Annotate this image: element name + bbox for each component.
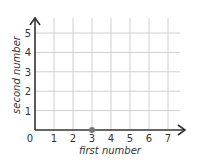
y-tick-label: 3 (25, 67, 31, 78)
x-tick-labels: 01234567 (27, 133, 171, 144)
x-axis-label: first number (79, 145, 142, 156)
axes (30, 18, 185, 135)
y-tick-label: 1 (25, 106, 31, 117)
x-tick-label: 2 (70, 133, 76, 144)
data-point (89, 127, 95, 133)
y-tick-label: 2 (25, 86, 31, 97)
x-tick-label: 7 (165, 133, 171, 144)
x-tick-label: 1 (51, 133, 57, 144)
y-tick-labels: 12345 (25, 28, 31, 117)
data-points (89, 127, 95, 133)
x-tick-label: 0 (27, 133, 33, 144)
y-tick-label: 5 (25, 28, 31, 39)
grid-lines (35, 18, 180, 130)
x-tick-label: 5 (127, 133, 133, 144)
y-tick-label: 4 (25, 47, 31, 58)
coordinate-chart: 01234567 12345 first number second numbe… (0, 0, 197, 163)
x-tick-label: 6 (146, 133, 152, 144)
x-tick-label: 4 (108, 133, 114, 144)
y-axis-label: second number (11, 35, 22, 114)
x-tick-label: 3 (89, 133, 95, 144)
